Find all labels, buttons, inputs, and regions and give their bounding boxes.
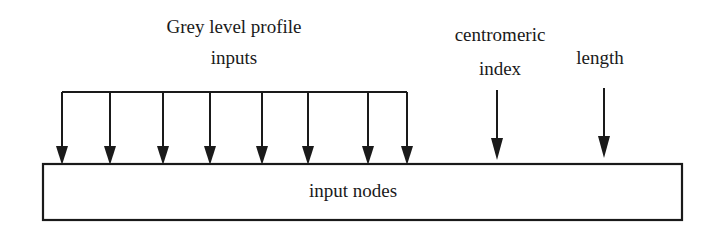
input-nodes-label: input nodes: [253, 180, 453, 202]
grey-level-label-line2: inputs: [134, 47, 334, 69]
grey-level-arrows: [62, 92, 407, 150]
grey-level-label-line1: Grey level profile: [134, 16, 334, 38]
length-label: length: [550, 47, 650, 69]
centromeric-label-line1: centromeric: [430, 24, 570, 46]
centromeric-label-line2: index: [430, 58, 570, 80]
